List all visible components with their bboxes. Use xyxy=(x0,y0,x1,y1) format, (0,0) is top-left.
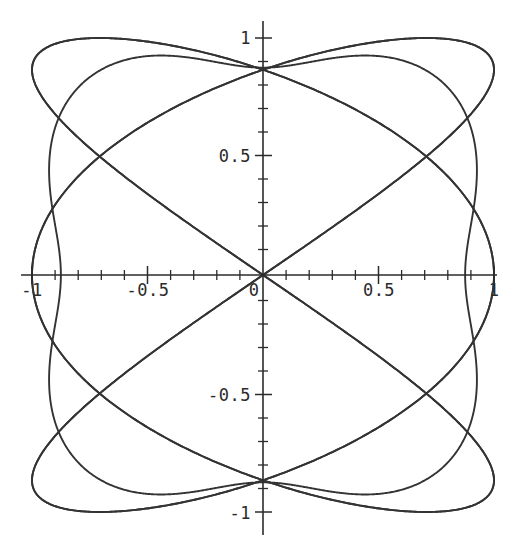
x-axis-label--0.5: -0.5 xyxy=(127,280,170,300)
x-axis-label--1: -1 xyxy=(21,280,42,300)
x-axis-label-0: 0 xyxy=(249,280,260,300)
x-axis-label-0.5: 0.5 xyxy=(363,280,395,300)
y-axis-label-0.5: 0.5 xyxy=(219,146,251,166)
y-axis-label--1: -1 xyxy=(230,503,251,523)
y-axis-label--0.5: -0.5 xyxy=(208,385,251,405)
y-axis-label-1: 1 xyxy=(240,28,251,48)
x-axis-label-1: 1 xyxy=(489,280,500,300)
plot-svg: -1 -0.5 0 0.5 1 1 0.5 -0.5 -1 xyxy=(0,0,517,553)
plot-canvas: -1 -0.5 0 0.5 1 1 0.5 -0.5 -1 xyxy=(0,0,517,553)
